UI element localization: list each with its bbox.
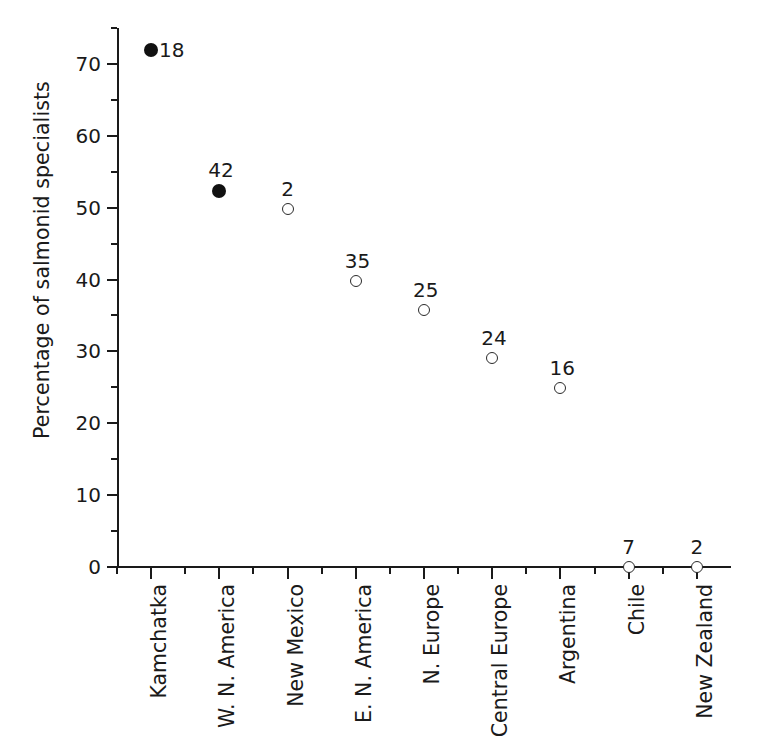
y-tick-label: 50 bbox=[57, 198, 101, 218]
x-tick-minor bbox=[184, 568, 186, 574]
y-tick-minor bbox=[111, 243, 117, 245]
y-tick-minor bbox=[111, 314, 117, 316]
x-tick-minor bbox=[662, 568, 664, 574]
data-point-label: 2 bbox=[277, 179, 299, 199]
x-tick-major bbox=[355, 568, 357, 579]
y-tick-major bbox=[107, 350, 117, 352]
data-point-marker bbox=[282, 203, 294, 215]
x-tick-major bbox=[423, 568, 425, 579]
x-tick-minor bbox=[252, 568, 254, 574]
x-tick-major bbox=[491, 568, 493, 579]
y-tick-major bbox=[107, 422, 117, 424]
x-tick-minor bbox=[457, 568, 459, 574]
y-tick-label: 60 bbox=[57, 126, 101, 146]
x-tick-label: Central Europe bbox=[489, 584, 511, 756]
data-point-marker bbox=[554, 382, 566, 394]
y-tick-minor bbox=[111, 99, 117, 101]
y-tick-minor bbox=[111, 530, 117, 532]
data-point-label: 16 bbox=[549, 358, 571, 378]
x-tick-minor bbox=[321, 568, 323, 574]
x-tick-label: New Zealand bbox=[694, 584, 716, 756]
y-tick-major bbox=[107, 279, 117, 281]
data-point-marker bbox=[212, 184, 226, 198]
y-tick-minor bbox=[111, 458, 117, 460]
data-point-label: 24 bbox=[481, 328, 503, 348]
scatter-chart: Percentage of salmonid specialists 01020… bbox=[0, 0, 762, 756]
y-tick-major bbox=[107, 63, 117, 65]
data-point-marker bbox=[623, 561, 635, 573]
data-point-label: 18 bbox=[159, 40, 184, 60]
x-tick-label: Kamchatka bbox=[148, 584, 170, 756]
x-tick-label: N. Europe bbox=[421, 584, 443, 756]
x-tick-label: W. N. America bbox=[216, 584, 238, 756]
y-axis-title: Percentage of salmonid specialists bbox=[22, 0, 62, 520]
y-tick-minor bbox=[111, 171, 117, 173]
y-tick-major bbox=[107, 494, 117, 496]
y-tick-minor bbox=[111, 386, 117, 388]
x-tick-minor bbox=[116, 568, 118, 574]
y-tick-major bbox=[107, 207, 117, 209]
y-tick-label: 0 bbox=[57, 557, 101, 577]
data-point-label: 42 bbox=[208, 160, 230, 180]
x-tick-label: Argentina bbox=[557, 584, 579, 756]
y-tick-major bbox=[107, 135, 117, 137]
data-point-marker bbox=[144, 43, 158, 57]
x-tick-major bbox=[150, 568, 152, 579]
x-tick-label: Chile bbox=[626, 584, 648, 756]
x-tick-label: E. N. America bbox=[353, 584, 375, 756]
data-point-label: 35 bbox=[345, 251, 367, 271]
x-tick-major bbox=[559, 568, 561, 579]
x-tick-minor bbox=[389, 568, 391, 574]
data-point-label: 2 bbox=[686, 537, 708, 557]
data-point-label: 7 bbox=[618, 537, 640, 557]
x-tick-major bbox=[218, 568, 220, 579]
x-tick-major bbox=[287, 568, 289, 579]
y-axis-line bbox=[117, 28, 119, 568]
data-point-marker bbox=[691, 561, 703, 573]
y-tick-label: 20 bbox=[57, 413, 101, 433]
data-point-marker bbox=[418, 304, 430, 316]
y-tick-label: 30 bbox=[57, 341, 101, 361]
y-tick-label: 10 bbox=[57, 485, 101, 505]
y-tick-label: 70 bbox=[57, 54, 101, 74]
data-point-label: 25 bbox=[413, 280, 435, 300]
x-tick-minor bbox=[594, 568, 596, 574]
x-tick-label: New Mexico bbox=[285, 584, 307, 756]
y-tick-label: 40 bbox=[57, 270, 101, 290]
data-point-marker bbox=[486, 352, 498, 364]
x-tick-minor bbox=[525, 568, 527, 574]
y-tick-minor bbox=[111, 27, 117, 29]
data-point-marker bbox=[350, 275, 362, 287]
